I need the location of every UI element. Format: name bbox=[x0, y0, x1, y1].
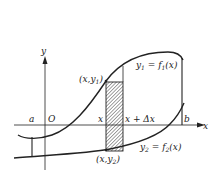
hatched-strip bbox=[106, 82, 123, 151]
strip-left-label: x bbox=[98, 114, 103, 124]
point-x-y1 bbox=[105, 80, 108, 83]
y-axis-arrow-icon bbox=[43, 56, 48, 64]
top-point-label: (x,y1) bbox=[79, 74, 103, 85]
point-x-y2 bbox=[105, 149, 108, 152]
b-label: b bbox=[184, 114, 190, 124]
y-axis-label: y bbox=[40, 46, 47, 56]
curve-f2-label: y2 = f2(x) bbox=[139, 142, 182, 153]
a-label: a bbox=[29, 114, 34, 124]
strip-right-label: x + Δx bbox=[125, 114, 155, 124]
origin-label: O bbox=[48, 114, 56, 124]
x-axis-label: x bbox=[203, 121, 208, 131]
curve-f1-label: y1 = f1(x) bbox=[135, 60, 178, 71]
area-between-curves-diagram: y x O a b x x + Δx (x,y1) (x,y2) y1 = f1… bbox=[0, 0, 217, 179]
bottom-point-label: (x,y2) bbox=[96, 154, 120, 165]
